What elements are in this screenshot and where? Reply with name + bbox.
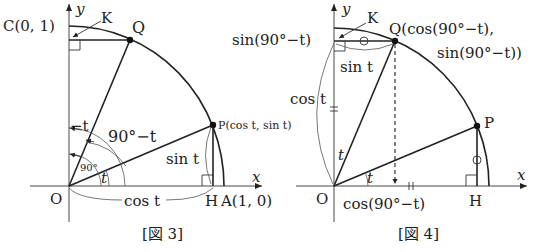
caption-fig3: [図 3] <box>142 225 183 243</box>
y-axis-label: y <box>341 0 351 18</box>
diagram-canvas: y x C(0, 1) K Q P(cos t, sin t) O H A(1,… <box>0 0 550 252</box>
right-angle-H <box>202 175 213 186</box>
label-sin-t: sin t <box>340 58 373 76</box>
x-axis-label: x <box>252 168 261 186</box>
brace-cos-t <box>317 43 334 184</box>
label-minus-t: −t <box>70 117 89 135</box>
label-O: O <box>50 190 62 208</box>
label-cos-90-minus-t: cos(90°−t) <box>343 195 425 213</box>
caption-fig4: [図 4] <box>398 225 439 243</box>
point-P <box>474 123 480 129</box>
label-A: A(1, 0) <box>220 192 272 210</box>
right-angle-K <box>69 40 80 50</box>
label-Q-line1: Q(cos(90°−t), <box>389 20 494 38</box>
right-angle-H <box>466 175 477 186</box>
label-K: K <box>101 9 113 27</box>
label-cos-t: cos t <box>124 192 160 210</box>
x-axis-label: x <box>517 166 526 184</box>
label-t-upper: t <box>338 146 345 164</box>
label-O: O <box>316 190 328 208</box>
label-Q: Q <box>132 18 145 37</box>
label-P: P <box>484 114 494 132</box>
label-90-minus-t: 90°−t <box>108 127 157 146</box>
label-sin-90-minus-t: sin(90°−t) <box>232 31 311 49</box>
label-90: 90° <box>80 162 98 173</box>
label-P: P(cos t, sin t) <box>218 119 292 132</box>
label-K: K <box>367 9 379 27</box>
label-H: H <box>469 192 482 210</box>
y-axis-label: y <box>75 0 85 18</box>
label-C: C(0, 1) <box>3 17 55 35</box>
label-cos-t: cos t <box>290 90 326 108</box>
point-Q <box>392 38 398 44</box>
label-t: t <box>101 169 108 187</box>
label-t-lower: t <box>367 169 374 187</box>
label-sin-t: sin t <box>166 150 199 168</box>
point-Q <box>127 37 133 43</box>
label-Q-line2: sin(90°−t)) <box>437 44 522 62</box>
label-H: H <box>205 192 218 210</box>
right-angle-K <box>334 41 345 51</box>
